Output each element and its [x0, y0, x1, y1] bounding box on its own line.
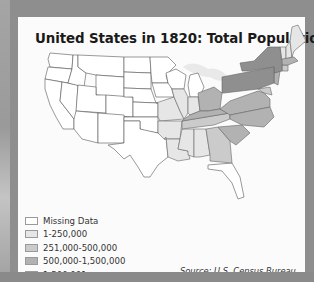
state-north-dakota: [124, 57, 151, 73]
background-edge: [0, 0, 10, 282]
legend-item-tier2: 251,000-500,000: [25, 241, 125, 255]
state-new-mexico: [98, 113, 124, 143]
map-panel: United States in 1820: Total Population: [18, 17, 305, 272]
state-arkansas: [158, 121, 182, 139]
legend-swatch: [25, 244, 38, 252]
legend-label: Missing Data: [43, 216, 98, 226]
legend-label: 1-250,000: [43, 229, 87, 239]
legend-item-missing: Missing Data: [25, 214, 125, 228]
legend-item-tier1: 1-250,000: [25, 228, 125, 242]
state-kansas: [133, 102, 158, 117]
legend-item-tier3: 500,000-1,500,000: [25, 255, 125, 269]
legend-label: 251,000-500,000: [43, 243, 117, 253]
state-south-dakota: [124, 72, 151, 89]
legend-swatch: [25, 230, 38, 238]
legend-label: 500,000-1,500,000: [43, 256, 125, 266]
frame-bottom: [0, 272, 314, 282]
state-new-jersey: [274, 71, 280, 85]
state-wyoming: [96, 75, 124, 97]
state-new-york: [240, 47, 282, 73]
state-washington: [48, 53, 73, 69]
legend-swatch: [25, 217, 38, 225]
state-maine: [290, 25, 305, 57]
state-florida: [208, 163, 244, 199]
state-connecticut: [282, 65, 288, 71]
state-arizona: [74, 111, 98, 143]
legend-swatch: [25, 257, 38, 265]
